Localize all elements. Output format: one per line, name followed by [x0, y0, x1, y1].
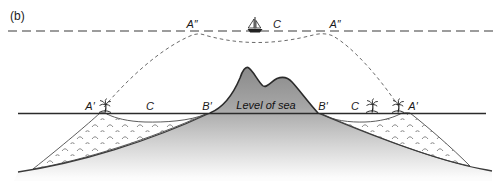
- palm-tree-icon: [366, 99, 378, 113]
- label-a-prime-right: A′: [407, 100, 418, 112]
- label-a-prime-left: A′: [84, 100, 95, 112]
- label-c-upper: C: [273, 18, 281, 30]
- label-a-double-prime-left: A″: [185, 18, 198, 30]
- atoll-formation-figure-panel-b: (b) A″ C A″ A′ C B′ Level of sea B′ C A′: [0, 0, 504, 181]
- label-a-double-prime-right: A″: [328, 18, 341, 30]
- label-level-of-sea: Level of sea: [236, 99, 295, 111]
- label-b-prime-left: B′: [202, 100, 212, 112]
- cross-section-diagram: (b) A″ C A″ A′ C B′ Level of sea B′ C A′: [0, 0, 504, 181]
- figure-panel-label: (b): [10, 9, 25, 23]
- label-c-left: C: [146, 100, 154, 112]
- sailboat-icon: [248, 17, 263, 33]
- label-c-right: C: [351, 100, 359, 112]
- label-b-prime-right: B′: [318, 100, 328, 112]
